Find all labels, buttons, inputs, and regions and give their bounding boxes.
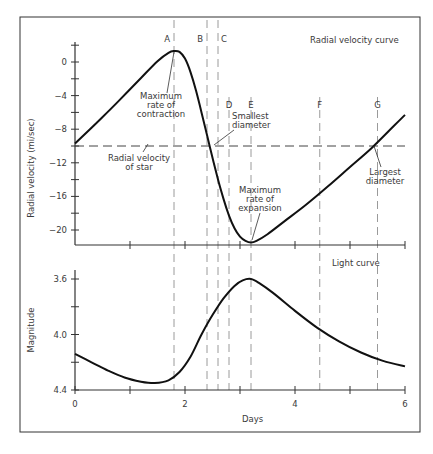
annotation-expansion: Maximum rate of expansion (238, 185, 281, 240)
phase-marker-label-e: E (248, 100, 253, 110)
lc-x-tick-label: 0 (72, 399, 77, 409)
annotation-contraction: Maximum rate of contraction (137, 52, 185, 119)
annotation-text: of star (125, 162, 153, 172)
phase-marker-label-a: A (164, 34, 170, 44)
rv-y-tick-label: −20 (49, 225, 67, 235)
x-axis-title: Days (242, 414, 264, 424)
annotation-text: contraction (137, 109, 185, 119)
annotation-leader (252, 213, 260, 240)
cepheid-chart: ABCDEFG 0−4−8−12−16−20 3.64.04.40246 Rad… (0, 0, 433, 454)
lc-x-tick-label: 6 (402, 399, 407, 409)
annotation-text: expansion (238, 203, 281, 213)
lc-y-tick-label: 3.6 (53, 274, 67, 284)
lc-ylabel: Magnitude (26, 307, 36, 352)
lc-x-tick-label: 2 (182, 399, 187, 409)
phase-marker-label-c: C (221, 34, 227, 44)
rv-y-tick-label: 0 (62, 57, 67, 67)
phase-marker-label-f: F (317, 100, 322, 110)
rv-series-line (75, 51, 405, 243)
annotation-leader (143, 144, 148, 152)
rv-y-tick-label: −12 (49, 158, 67, 168)
lc-x-tick-label: 4 (292, 399, 297, 409)
phase-marker-label-d: D (226, 100, 233, 110)
rv-ylabel: Radial velocity (mi/sec) (26, 118, 36, 217)
rv-axes: 0−4−8−12−16−20 (49, 42, 405, 249)
annotation-leader (214, 130, 234, 145)
annotation-star-velocity: Radial velocity of star (108, 144, 170, 172)
annotation-text: diameter (232, 120, 271, 130)
lc-series-line (75, 279, 405, 383)
rv-y-tick-label: −8 (54, 124, 67, 134)
annotation-leader (167, 52, 174, 93)
lc-title: Light curve (332, 258, 380, 268)
rv-y-tick-label: −16 (49, 191, 67, 201)
lc-y-tick-label: 4.0 (53, 330, 67, 340)
phase-marker-label-b: B (197, 34, 203, 44)
phase-marker-label-g: G (374, 100, 381, 110)
figure-frame (20, 17, 420, 432)
annotation-largest-diameter: Largest diameter (366, 146, 405, 186)
rv-title: Radial velocity curve (310, 35, 399, 45)
lc-y-tick-label: 4.4 (53, 385, 67, 395)
rv-y-tick-label: −4 (54, 91, 67, 101)
annotation-smallest-diameter: Smallest diameter (214, 111, 271, 145)
annotation-text: diameter (366, 176, 405, 186)
